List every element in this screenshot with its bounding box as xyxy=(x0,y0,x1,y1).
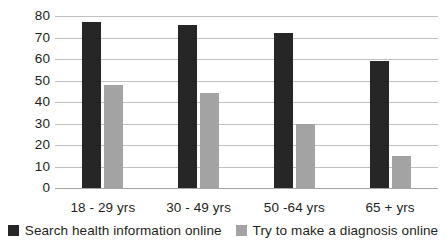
x-axis-tick-label: 30 - 49 yrs xyxy=(151,198,247,218)
y-axis-tick: 0 xyxy=(14,181,50,195)
bar-search-health-information-online xyxy=(274,33,293,188)
dark-square-icon xyxy=(8,225,19,236)
axis-baseline xyxy=(55,188,438,189)
bar-group xyxy=(342,16,438,188)
bar-chart: 80 70 60 50 40 30 20 10 0 xyxy=(0,0,446,241)
x-axis-tick-label: 18 - 29 yrs xyxy=(55,198,151,218)
bar-group xyxy=(55,16,151,188)
y-axis-tick: 40 xyxy=(14,95,50,109)
y-axis: 80 70 60 50 40 30 20 10 0 xyxy=(14,8,50,196)
y-axis-tick: 60 xyxy=(14,52,50,66)
plot-area: 80 70 60 50 40 30 20 10 0 xyxy=(0,0,446,198)
x-axis: 18 - 29 yrs 30 - 49 yrs 50 -64 yrs 65 + … xyxy=(55,198,438,218)
y-axis-tick: 80 xyxy=(14,9,50,23)
bar-try-to-make-a-diagnosis-online xyxy=(104,85,123,188)
y-axis-tick: 70 xyxy=(14,31,50,45)
chart-legend: Search health information online Try to … xyxy=(0,219,446,241)
y-axis-tick: 50 xyxy=(14,74,50,88)
bar-search-health-information-online xyxy=(82,22,101,188)
x-axis-tick-label: 50 -64 yrs xyxy=(247,198,343,218)
y-axis-tick: 10 xyxy=(14,160,50,174)
bar-group xyxy=(151,16,247,188)
bar-search-health-information-online xyxy=(178,25,197,188)
bars-layer xyxy=(55,16,438,188)
legend-label: Try to make a diagnosis online xyxy=(253,223,439,238)
light-square-icon xyxy=(236,225,247,236)
y-axis-tick: 30 xyxy=(14,117,50,131)
bar-try-to-make-a-diagnosis-online xyxy=(296,124,315,189)
bar-group xyxy=(247,16,343,188)
legend-item-search-health-information-online: Search health information online xyxy=(8,223,222,238)
bar-try-to-make-a-diagnosis-online xyxy=(392,156,411,188)
bar-search-health-information-online xyxy=(370,61,389,188)
x-axis-tick-label: 65 + yrs xyxy=(342,198,438,218)
y-axis-tick: 20 xyxy=(14,138,50,152)
bar-try-to-make-a-diagnosis-online xyxy=(200,93,219,188)
legend-label: Search health information online xyxy=(25,223,222,238)
legend-item-try-to-make-a-diagnosis-online: Try to make a diagnosis online xyxy=(236,223,439,238)
